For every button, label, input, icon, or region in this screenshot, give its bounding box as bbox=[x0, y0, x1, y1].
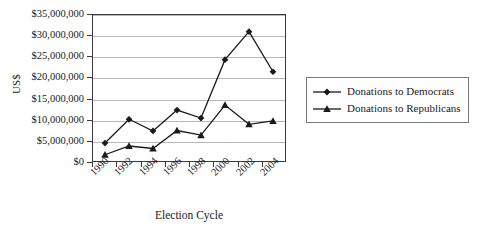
y-tick-mark bbox=[87, 77, 92, 78]
y-tick-label: $25,000,000 bbox=[6, 51, 84, 62]
y-tick-mark bbox=[87, 99, 92, 100]
triangle-marker-icon bbox=[312, 102, 342, 116]
donations-line-chart: US$ $0$5,000,000$10,000,000$15,000,000$2… bbox=[0, 0, 481, 233]
legend-label: Donations to Democrats bbox=[347, 86, 454, 97]
chart-legend: Donations to DemocratsDonations to Repub… bbox=[306, 77, 469, 123]
y-tick-label: $30,000,000 bbox=[6, 30, 84, 41]
data-point-marker bbox=[270, 68, 277, 75]
legend-item-2: Donations to Republicans bbox=[312, 100, 461, 117]
y-tick-label: $10,000,000 bbox=[6, 115, 84, 126]
y-tick-mark bbox=[87, 141, 92, 142]
data-point-marker bbox=[221, 101, 229, 108]
legend-label: Donations to Republicans bbox=[347, 103, 461, 114]
data-point-marker bbox=[173, 127, 181, 134]
y-tick-label: $0 bbox=[6, 157, 84, 168]
series-layer bbox=[93, 15, 285, 161]
diamond-marker-icon bbox=[312, 85, 342, 99]
data-point-marker bbox=[269, 117, 277, 124]
y-tick-label: $35,000,000 bbox=[6, 9, 84, 20]
y-tick-mark bbox=[87, 35, 92, 36]
y-tick-mark bbox=[87, 56, 92, 57]
y-tick-mark bbox=[87, 120, 92, 121]
y-tick-label: $20,000,000 bbox=[6, 72, 84, 83]
plot-area bbox=[92, 14, 286, 162]
y-tick-label: $15,000,000 bbox=[6, 94, 84, 105]
y-tick-label: $5,000,000 bbox=[6, 136, 84, 147]
y-tick-mark bbox=[87, 14, 92, 15]
legend-item-1: Donations to Democrats bbox=[312, 83, 461, 100]
y-axis-tick-labels: $0$5,000,000$10,000,000$15,000,000$20,00… bbox=[6, 0, 84, 233]
x-axis-label: Election Cycle bbox=[92, 209, 286, 221]
data-point-marker bbox=[198, 115, 205, 122]
